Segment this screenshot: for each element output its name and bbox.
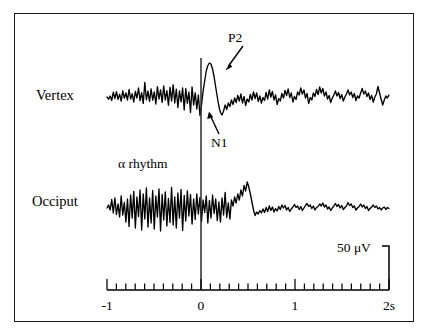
n1-arrow-head	[207, 112, 213, 120]
scale-bar-label: 50 μV	[337, 241, 371, 255]
axis-tick-label: 1	[292, 299, 299, 313]
annotation-label-p2: P2	[228, 31, 242, 45]
p2-arrow-shaft	[229, 46, 244, 66]
n1-arrow-shaft	[211, 116, 220, 134]
p2-arrow-head	[226, 63, 233, 70]
figure-root: Vertex Occiput α rhythm P2 N1 50 μV -101…	[0, 0, 429, 333]
waveform-plot	[0, 0, 429, 333]
axis-tick-label: -1	[102, 299, 113, 313]
axis-tick-label: 0	[198, 299, 205, 313]
annotation-alpha-rhythm: α rhythm	[118, 157, 167, 171]
scale-bar-bracket	[382, 246, 389, 290]
waveform-trace-occiput	[107, 182, 389, 231]
time-axis	[107, 279, 389, 290]
axis-ticks	[107, 279, 389, 290]
axis-tick-label: 2s	[383, 299, 395, 313]
scale-bar	[382, 246, 389, 290]
waveform-trace-vertex	[107, 63, 389, 116]
channel-label-vertex: Vertex	[36, 88, 74, 103]
annotation-label-n1: N1	[211, 136, 228, 150]
n1-arrow	[207, 112, 219, 135]
traces-group	[107, 63, 389, 231]
channel-label-occiput: Occiput	[32, 194, 78, 209]
p2-arrow	[226, 46, 244, 71]
